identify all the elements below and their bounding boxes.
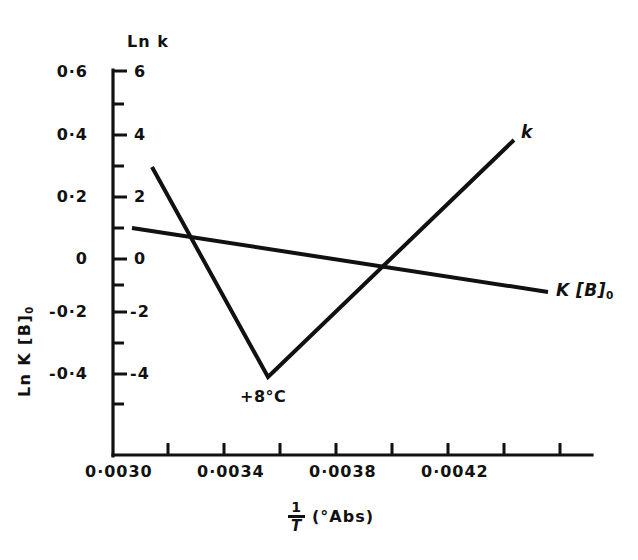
y-axis-title-text: Ln K [B]	[15, 314, 34, 397]
y-axis-title-subscript: 0	[24, 306, 35, 314]
x-axis-tick-label-1: 0·0034	[197, 462, 265, 481]
right-axis-tick-label-0: 6	[134, 62, 146, 81]
series-label-k: k	[521, 122, 533, 142]
annotation-vertex-temperature: +8°C	[240, 387, 286, 406]
left-axis-tick-label-1: 0·4	[18, 125, 88, 144]
x-axis-ticks	[168, 443, 560, 455]
x-axis-title-fraction: 1 T	[288, 500, 305, 534]
x-axis-tick-label-2: 0·0038	[309, 462, 377, 481]
right-axis-tick-label-2: 2	[134, 187, 146, 206]
x-axis-title-denominator: T	[291, 518, 302, 534]
x-axis-title: 1 T (°Abs)	[288, 500, 374, 534]
right-axis-tick-label-4: -2	[130, 302, 150, 321]
x-axis-tick-label-0: 0·0030	[85, 462, 153, 481]
top-axis-title: Ln k	[127, 32, 169, 51]
left-axis-tick-label-2: 0·2	[18, 187, 88, 206]
right-axis-tick-label-5: -4	[130, 364, 150, 383]
series-label-kb0-text: K [B]	[556, 280, 606, 300]
x-axis-tick-label-3: 0·0042	[421, 462, 489, 481]
x-axis-title-unit: (°Abs)	[312, 507, 374, 526]
right-axis-tick-label-1: 4	[134, 125, 146, 144]
figure-container: Ln k 0·6 0·4 0·2 0 -0·2 -0·4 6 4 2 0 -2 …	[0, 0, 638, 560]
series-label-kb0: K [B]0	[556, 280, 614, 300]
left-axis-tick-label-0: 0·6	[18, 62, 88, 81]
right-axis-tick-label-3: 0	[134, 249, 146, 268]
series-label-kb0-subscript: 0	[606, 289, 614, 301]
left-axis-tick-label-3: 0	[18, 249, 88, 268]
y-axis-title: Ln K [B]0	[15, 306, 34, 397]
y-axis-ticks	[113, 71, 127, 404]
x-axis-title-numerator: 1	[291, 500, 302, 515]
series-line-kb0	[132, 228, 548, 292]
